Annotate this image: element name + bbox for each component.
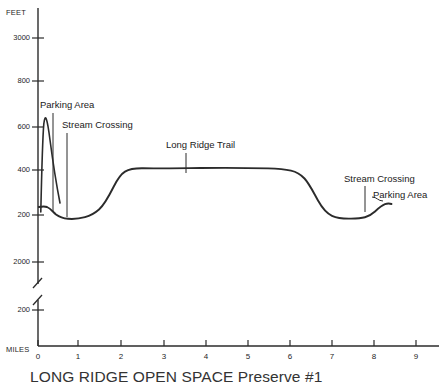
elevation-profile-chart: FEET MILES 3000 800 600 400 200 2000 200… bbox=[0, 0, 439, 386]
chart-canvas bbox=[0, 0, 439, 386]
leader-line-parking-area-end bbox=[372, 197, 383, 201]
elevation-spur-parking-start bbox=[41, 118, 60, 212]
elevation-profile-line bbox=[39, 168, 392, 219]
